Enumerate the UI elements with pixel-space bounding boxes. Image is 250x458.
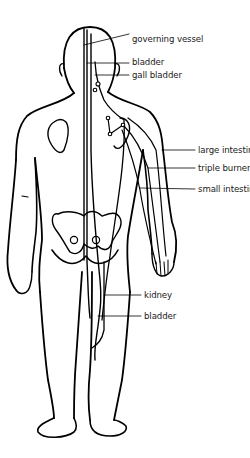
kidney-line [92,262,104,348]
label-kidney: kidney [144,290,172,300]
acupoint [96,82,100,86]
acupoint [108,132,112,136]
leg-right-outer [114,292,130,420]
small-intestine-zigzag [108,118,123,134]
hand-left [16,272,32,293]
gall-bladder-line [95,62,124,320]
sacral-hole-left [70,236,77,243]
scapula-left [48,119,68,152]
label-bladder-upper: bladder [132,57,164,67]
arm-left-outer [7,160,16,290]
acupoint [106,116,110,120]
leg-left-outer [40,292,54,418]
leg-left-inner [74,272,82,418]
label-bladder-lower: bladder [144,311,176,321]
head-outline [64,27,116,92]
body-back-view-illustration [0,0,250,458]
shoulder-left [16,93,74,160]
foot-left [38,418,77,437]
label-governing-vessel: governing vessel [132,34,203,44]
buttock-curve [52,250,118,263]
hand-right [152,254,174,276]
acupoint [93,88,97,92]
bladder-line-left [87,30,90,318]
head-outline-left [64,68,74,93]
label-large-intestine: large intestine [198,145,250,155]
label-gall-bladder: gall bladder [132,70,182,80]
leader-small-intestine [140,188,195,189]
label-small-intestine: small intestine [198,184,250,194]
foot-right [90,420,126,436]
label-triple-burner: triple burner [198,163,250,173]
elbow-left [22,196,28,197]
